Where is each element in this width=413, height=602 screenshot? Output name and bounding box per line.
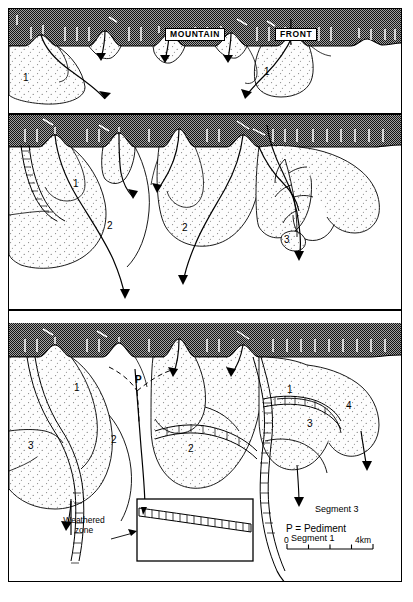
panel-2-graphics: [9, 115, 401, 309]
fan-label-3-3b: 3: [307, 419, 313, 429]
scale-max-label: 4km: [355, 535, 371, 545]
fan-label-3-2b: 2: [188, 444, 194, 454]
segment-1-label: Segment 1: [291, 533, 335, 543]
fan-label-3-1b: 1: [287, 385, 293, 395]
fan-label-2-2a: 2: [107, 221, 113, 231]
fan-label-2-1: 1: [73, 179, 79, 189]
label-mountain: MOUNTAIN: [165, 28, 225, 41]
segment-3-label: Segment 3: [315, 504, 359, 514]
figure-root: MOUNTAIN FRONT 1 1: [0, 0, 413, 602]
fan-2-left: [9, 135, 106, 268]
panel-stage-3: 1 2 3 2 1 3 4 P: [9, 311, 401, 581]
weathered-zone-label-line2: zone: [75, 525, 93, 535]
weathered-zone-label: Weathered zone: [53, 516, 115, 536]
scale-min-label: 0: [284, 535, 289, 545]
fan-label-3-2a: 2: [111, 435, 117, 445]
fan-label-2-3: 3: [284, 235, 290, 245]
label-front: FRONT: [275, 28, 317, 41]
pediment-marker-p: P: [135, 375, 142, 385]
fan-2-center: [157, 129, 261, 246]
fan-2-d: [256, 146, 312, 238]
fan-label-2-2b: 2: [182, 223, 188, 233]
fan-label-1b: 1: [264, 67, 270, 77]
panel-1-graphics: [9, 9, 401, 113]
fan-label-3-3a: 3: [28, 441, 34, 451]
figure-frame: MOUNTAIN FRONT 1 1: [8, 8, 402, 582]
fan-label-3-4: 4: [346, 401, 352, 411]
fan-label-1a: 1: [23, 73, 29, 83]
weathered-zone-label-line1: Weathered: [63, 515, 104, 525]
panel-stage-2: 1 2 2 3: [9, 115, 401, 309]
pediment-key-label: P = Pediment: [286, 523, 346, 534]
fan-label-3-1a: 1: [74, 383, 80, 393]
panel-stage-1: MOUNTAIN FRONT 1 1: [9, 9, 401, 113]
